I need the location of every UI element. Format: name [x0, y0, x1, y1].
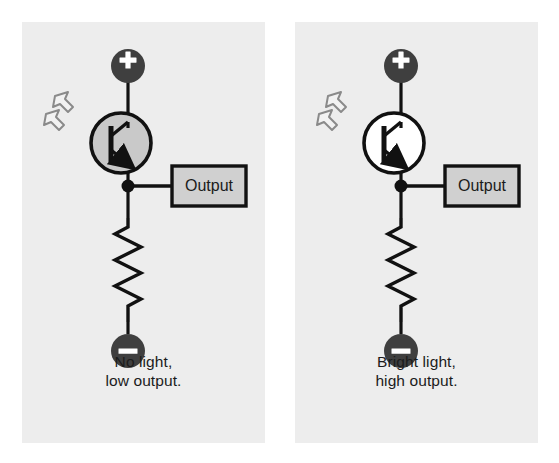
- caption-line-2: low output.: [22, 371, 265, 390]
- resistor-symbol: [388, 218, 414, 322]
- phototransistor-body: [364, 113, 424, 173]
- panel-caption-bright-light: Bright light, high output.: [295, 352, 538, 390]
- caption-line-1: Bright light,: [377, 353, 456, 370]
- output-box-label: Output: [185, 177, 233, 195]
- panel-bright-light: Output Bright light, high output.: [295, 22, 538, 443]
- light-arrow-icon-2: [44, 110, 64, 130]
- light-arrow-icon-1: [53, 92, 73, 112]
- junction-node: [122, 180, 135, 193]
- plus-glyph-vertical: [125, 52, 130, 69]
- output-box-label-wrap: Output: [445, 166, 519, 206]
- light-arrow-icon-1: [326, 92, 346, 112]
- panel-caption-no-light: No light, low output.: [22, 352, 265, 390]
- resistor-symbol: [115, 218, 141, 322]
- light-arrow-icon-2: [317, 110, 337, 130]
- caption-line-2: high output.: [295, 371, 538, 390]
- phototransistor-body: [91, 113, 151, 173]
- caption-line-1: No light,: [115, 353, 173, 370]
- panel-no-light: Output No light, low output.: [22, 22, 265, 443]
- plus-glyph-vertical: [398, 52, 403, 69]
- junction-node: [395, 180, 408, 193]
- output-box-label: Output: [458, 177, 506, 195]
- output-box-label-wrap: Output: [172, 166, 246, 206]
